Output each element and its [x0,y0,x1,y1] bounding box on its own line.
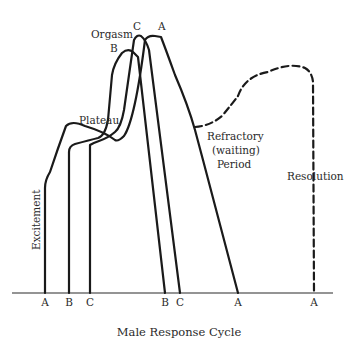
tick-a-resolution: A [309,296,318,308]
phase-label-orgasm: Orgasm [91,28,133,40]
phase-label-refractory-3: Period [217,158,252,170]
tick-b-start: B [65,296,73,308]
peak-label-b: B [110,42,118,54]
phase-label-excitement: Excitement [30,189,42,250]
tick-b-end: B [161,296,169,308]
phase-label-refractory-2: (waiting) [212,144,260,156]
response-cycle-diagram: C A B Orgasm Plateau Excitement Refracto… [0,0,359,347]
peak-label-a: A [157,20,166,32]
tick-c-end: C [176,296,184,308]
tick-a-refractory: A [233,296,242,308]
tick-a-start: A [40,296,49,308]
tick-c-start: C [86,296,94,308]
phase-label-plateau: Plateau [79,114,119,126]
phase-label-refractory-1: Refractory [207,130,264,142]
curve-b [69,50,165,293]
phase-label-resolution: Resolution [287,170,344,182]
curve-a [45,36,238,293]
curve-c [90,36,180,294]
diagram-title: Male Response Cycle [117,325,242,339]
peak-label-c: C [133,20,141,32]
